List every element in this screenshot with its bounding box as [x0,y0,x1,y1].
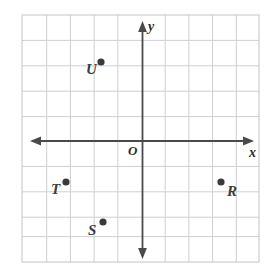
point-label-s: S [88,223,96,238]
point-label-u: U [86,62,97,77]
coordinate-plane-canvas [0,0,272,277]
point-marker-r [217,178,224,185]
point-marker-t [62,178,69,185]
grid-background [22,15,259,262]
point-label-t: T [51,182,60,197]
y-axis-label: y [148,20,154,34]
point-label-r: R [227,184,237,199]
coordinate-plane-figure: U T S R y x O [0,0,272,277]
point-marker-s [99,218,106,225]
x-axis-label: x [249,146,256,160]
origin-label: O [128,144,137,157]
point-marker-u [97,58,104,65]
